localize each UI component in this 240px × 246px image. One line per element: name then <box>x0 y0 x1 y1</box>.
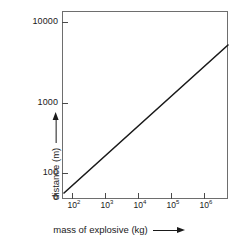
x-tick-exponent-1e6: 6 <box>209 199 212 205</box>
arrow-right-icon <box>153 226 187 234</box>
x-tick-exponent-1e5: 5 <box>176 199 179 205</box>
x-tick-label-1e4: 104 <box>134 201 147 210</box>
y-tick-10000 <box>62 22 68 23</box>
x-tick-label-1e3: 103 <box>101 201 114 210</box>
arrow-up-icon <box>52 111 60 143</box>
x-axis-title-text: mass of explosive (kg) <box>53 224 148 235</box>
y-tick-100 <box>62 173 68 174</box>
x-tick-label-1e5: 105 <box>167 201 180 210</box>
y-axis-title-text: distance (m) <box>50 148 61 200</box>
x-tick-exponent-1e4: 4 <box>143 199 146 205</box>
y-tick-1000 <box>62 103 68 104</box>
x-tick-label-1e2: 102 <box>68 201 81 210</box>
x-tick-exponent-1e2: 2 <box>77 199 80 205</box>
y-axis-title-wrap: distance (m) <box>8 40 24 200</box>
x-tick-1e2 <box>72 193 73 199</box>
x-tick-1e3 <box>105 193 106 199</box>
y-tick-label-1000: 1000 <box>38 98 58 107</box>
chart-figure: 10000 1000 100 0 102 103 104 105 106 mas… <box>0 0 240 246</box>
y-tick-label-10000: 10000 <box>32 17 58 26</box>
x-tick-1e5 <box>171 193 172 199</box>
plot-data-area <box>62 11 228 199</box>
x-tick-1e4 <box>138 193 139 199</box>
data-line-series-1 <box>64 45 228 193</box>
y-axis-title: distance (m) <box>50 111 61 200</box>
x-axis-title: mass of explosive (kg) <box>0 224 240 235</box>
x-tick-1e6 <box>204 193 205 199</box>
x-tick-label-1e6: 106 <box>200 201 213 210</box>
x-tick-exponent-1e3: 3 <box>110 199 113 205</box>
